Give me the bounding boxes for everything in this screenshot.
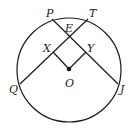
label-X: X bbox=[42, 42, 52, 55]
label-O: O bbox=[65, 77, 74, 90]
chord-PJ bbox=[52, 19, 118, 84]
circle-chords-diagram: P T E X Y O Q J bbox=[0, 0, 136, 136]
label-P: P bbox=[45, 7, 54, 20]
label-Q: Q bbox=[9, 83, 18, 96]
label-T: T bbox=[89, 7, 98, 20]
segment-OX bbox=[53, 52, 69, 69]
chord-TQ bbox=[20, 19, 88, 84]
label-J: J bbox=[118, 83, 125, 96]
center-point-O bbox=[67, 67, 72, 72]
label-E: E bbox=[64, 22, 73, 35]
label-Y: Y bbox=[87, 42, 96, 55]
segment-OY bbox=[69, 52, 86, 69]
